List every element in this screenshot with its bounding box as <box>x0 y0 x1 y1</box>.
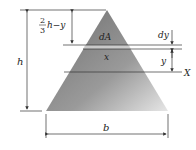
label-fraction-num: 2 <box>40 16 45 25</box>
label-dy: dy <box>158 30 170 40</box>
label-fraction-den: 3 <box>40 26 45 35</box>
label-dA: dA <box>99 32 112 42</box>
label-h: h <box>17 56 23 67</box>
area-element-strip <box>83 45 131 49</box>
triangle-diagram: h b 2 3 h−y dA x dy y X <box>0 0 196 150</box>
label-b: b <box>103 122 109 133</box>
label-x: x <box>104 52 109 62</box>
label-y: y <box>160 56 167 66</box>
label-top-distance: h−y <box>47 20 66 30</box>
label-X-axis: X <box>183 68 191 78</box>
